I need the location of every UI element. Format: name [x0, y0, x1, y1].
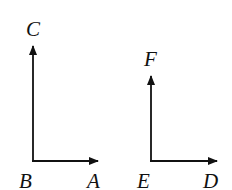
- angle-diagram: C B A F E D: [0, 0, 232, 190]
- right-angle-figure: F E D: [136, 47, 218, 190]
- label-c: C: [26, 17, 41, 41]
- left-angle-figure: C B A: [19, 17, 100, 190]
- label-f: F: [143, 47, 157, 71]
- label-d: D: [202, 169, 218, 190]
- label-b: B: [19, 169, 32, 190]
- label-a: A: [85, 169, 100, 190]
- label-e: E: [136, 169, 150, 190]
